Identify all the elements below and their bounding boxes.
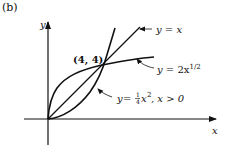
svg-text:4: 4: [136, 98, 140, 105]
curve-parabola: [48, 28, 115, 119]
panel-label: (b): [2, 1, 18, 14]
y-axis-label: y: [39, 19, 46, 30]
label-parabola: y = 1 4 x 2 , x > 0: [116, 91, 185, 105]
intersection-label: (4, 4): [73, 54, 103, 66]
svg-text:1: 1: [136, 91, 140, 98]
svg-text:=: =: [123, 93, 131, 104]
label-y-equals-x: y = x: [155, 24, 182, 35]
leader-sqrt: [137, 59, 154, 68]
svg-text:, x > 0: , x > 0: [151, 93, 185, 104]
label-sqrt: y = 2x1/2: [156, 63, 201, 75]
leader-parabola: [98, 89, 112, 97]
x-axis-label: x: [212, 125, 218, 136]
curve-line-y-equals-x: [48, 27, 140, 119]
svg-text:y: y: [116, 93, 123, 104]
diagram-canvas: (b) y x (4, 4) y = x y = 2x1/2 y = 1 4 x…: [0, 0, 226, 152]
